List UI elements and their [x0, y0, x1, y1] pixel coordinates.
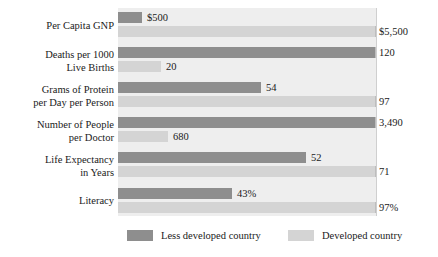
bar-less-developed	[118, 117, 376, 128]
bar-less-developed	[118, 47, 376, 58]
bar-value-label: 120	[379, 47, 395, 58]
category-label: Per Capita GNP	[2, 20, 114, 33]
category-axis: Per Capita GNP Deaths per 1000 Live Birt…	[0, 8, 114, 216]
bar-chart: Per Capita GNP Deaths per 1000 Live Birt…	[0, 0, 438, 257]
bar-value-label: $500	[147, 12, 168, 23]
bar-developed	[118, 131, 168, 142]
bar-value-label: 54	[266, 82, 277, 93]
bar-value-label: 680	[173, 131, 189, 142]
bar-less-developed	[118, 188, 232, 199]
bar-value-label: 52	[311, 152, 322, 163]
bar-value-label: 20	[166, 61, 177, 72]
bar-less-developed	[118, 12, 142, 23]
legend-item-developed: Developed country	[288, 228, 402, 242]
plot-area: $500 $5,500 120 20 54 97 3,490 680	[118, 8, 377, 216]
bar-developed	[118, 26, 376, 37]
category-label: Literacy	[2, 195, 114, 208]
legend-swatch-icon	[127, 230, 153, 241]
legend-label: Developed country	[322, 230, 402, 241]
bar-developed	[118, 61, 161, 72]
category-label: Deaths per 1000 Live Births	[2, 49, 114, 74]
bar-less-developed	[118, 152, 306, 163]
category-label: Number of People per Doctor	[2, 119, 114, 144]
category-label: Life Expectancy in Years	[2, 154, 114, 179]
legend-item-less-developed: Less developed country	[127, 228, 261, 242]
bar-less-developed	[118, 82, 261, 93]
bar-value-label: 43%	[237, 188, 256, 199]
bar-value-label: 71	[379, 166, 390, 177]
chart-legend: Less developed country Developed country	[0, 228, 438, 246]
legend-label: Less developed country	[161, 230, 261, 241]
bar-developed	[118, 202, 376, 213]
bar-developed	[118, 166, 376, 177]
bar-value-label: 3,490	[379, 117, 403, 128]
bar-value-label: 97	[379, 96, 390, 107]
bar-value-label: 97%	[379, 202, 398, 213]
category-label: Grams of Protein per Day per Person	[2, 84, 114, 109]
bar-value-label: $5,500	[379, 26, 408, 37]
bar-developed	[118, 96, 376, 107]
legend-swatch-icon	[288, 230, 314, 241]
